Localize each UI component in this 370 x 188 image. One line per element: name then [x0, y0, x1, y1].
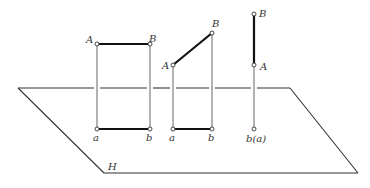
point-A	[171, 63, 175, 67]
point-b	[148, 127, 152, 131]
plane-label: H	[107, 161, 117, 172]
point-a	[171, 127, 175, 131]
label-A: A	[85, 34, 93, 45]
segment-AB	[173, 33, 212, 65]
point-A	[95, 42, 99, 46]
label-a: a	[169, 132, 175, 143]
point-B	[210, 31, 214, 35]
label-a: a	[93, 132, 99, 143]
label-A: A	[161, 60, 169, 71]
point-ba	[252, 127, 256, 131]
label-b: b	[146, 132, 152, 143]
label-A: A	[259, 61, 267, 72]
label-B: B	[211, 18, 219, 29]
point-B	[252, 12, 256, 16]
projection-diagram: H A B a b A B a b B A	[0, 0, 370, 188]
figure-oblique: A B a b	[161, 18, 219, 143]
label-b: b	[208, 132, 214, 143]
figure-perpendicular: B A b(a)	[246, 8, 267, 144]
plane-h: H	[18, 88, 358, 173]
point-A	[252, 63, 256, 67]
point-b	[210, 127, 214, 131]
point-a	[95, 127, 99, 131]
label-B: B	[148, 33, 156, 44]
label-B: B	[258, 8, 266, 19]
label-ba: b(a)	[246, 133, 266, 144]
